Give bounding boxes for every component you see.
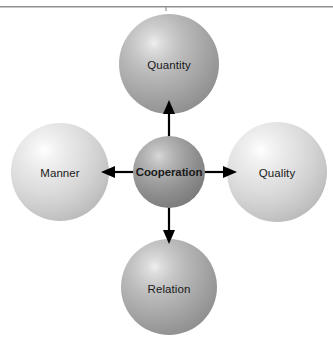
node-manner-label: Manner — [40, 167, 80, 179]
arrow-left-target[interactable] — [95, 164, 139, 180]
node-cooperation-label: Cooperation — [136, 166, 203, 178]
top-rule-tick-mark — [165, 7, 167, 11]
arrow-up-target[interactable] — [161, 96, 177, 140]
arrow-right-target[interactable] — [199, 164, 243, 180]
top-divider-rule — [0, 6, 333, 8]
node-cooperation[interactable]: Cooperation — [133, 136, 205, 208]
node-relation[interactable]: Relation — [121, 239, 217, 335]
node-quantity-label: Quantity — [147, 59, 191, 71]
node-relation-label: Relation — [148, 283, 191, 295]
node-quality-label: Quality — [259, 167, 296, 179]
arrow-down-target[interactable] — [161, 204, 177, 248]
cooperation-maxims-diagram: Quantity Manner Quality Relation Coopera… — [0, 0, 333, 341]
